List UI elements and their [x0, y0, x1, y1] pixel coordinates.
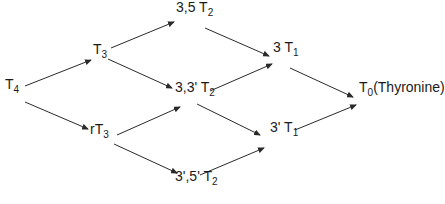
node-label: T4 — [5, 77, 19, 91]
node-prefix: 3 — [273, 39, 284, 55]
node-base: T — [95, 121, 104, 137]
node-label: 3',5' T2 — [175, 169, 218, 183]
arrow-edge — [210, 64, 272, 91]
node-prefix: 3,5 — [176, 0, 199, 15]
node-label: 3' T1 — [270, 120, 298, 134]
arrow-edge — [197, 104, 260, 135]
arrow-edge — [25, 60, 91, 86]
node-subscript: 2 — [208, 7, 214, 18]
arrow-edge — [111, 22, 174, 48]
node-subscript: 3 — [102, 49, 108, 60]
node-subscript: 2 — [212, 176, 218, 187]
node-base: T — [284, 39, 293, 55]
arrow-edge — [117, 107, 180, 135]
node-base: T — [284, 119, 293, 135]
node-base: T — [203, 168, 212, 184]
node-base: T — [93, 41, 102, 57]
node-subscript: 3 — [103, 129, 109, 140]
node-label: T3 — [93, 42, 107, 56]
node-subscript: 4 — [14, 84, 20, 95]
node-label: 3 T1 — [273, 40, 299, 54]
node-label: T0(Thyronine) — [359, 80, 445, 94]
arrow-edge — [25, 102, 88, 129]
node-base: T — [359, 79, 368, 95]
node-prefix: 3' — [270, 119, 284, 135]
node-base: T — [199, 0, 208, 15]
arrow-edge — [290, 68, 353, 97]
arrow-edge — [114, 144, 177, 173]
node-label: 3,5 T2 — [176, 0, 213, 14]
node-label: 3,3' T2 — [175, 80, 215, 94]
arrow-edge — [108, 59, 172, 88]
node-label: rT3 — [90, 122, 109, 136]
arrow-edge — [205, 28, 269, 56]
node-suffix: (Thyronine) — [373, 79, 445, 95]
node-prefix: 3,3' — [175, 79, 201, 95]
node-subscript: 1 — [293, 47, 299, 58]
node-subscript: 2 — [209, 87, 215, 98]
node-base: T — [5, 76, 14, 92]
node-subscript: 1 — [293, 127, 299, 138]
node-prefix: 3',5' — [175, 168, 203, 184]
arrow-edge — [295, 105, 356, 130]
